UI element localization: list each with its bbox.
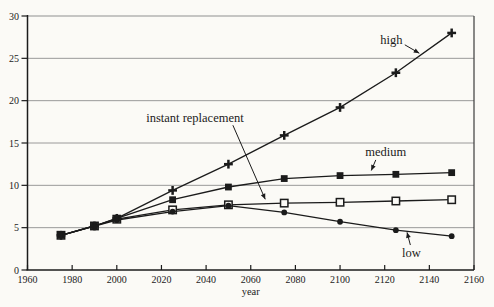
y-tick-label-30: 30 [9, 11, 19, 22]
annotation-label-instant-replacement: instant replacement [146, 111, 244, 125]
x-axis-title: year [242, 286, 261, 297]
y-tick-label-25: 25 [9, 53, 19, 64]
marker-medium [281, 175, 288, 182]
y-tick-label-10: 10 [9, 180, 19, 191]
marker-instant-replacement [281, 199, 288, 206]
marker-medium [225, 184, 232, 191]
population-projection-chart: 0510152025301960198020002020204020602080… [0, 0, 494, 307]
marker-instant-replacement [336, 199, 343, 206]
marker-medium [392, 171, 399, 178]
x-tick-label-2020: 2020 [151, 274, 171, 285]
paper-background [0, 0, 494, 307]
marker-low [226, 203, 232, 209]
marker-medium [169, 196, 176, 203]
scanned-figure-page: 0510152025301960198020002020204020602080… [0, 0, 494, 307]
marker-instant-replacement [392, 197, 399, 204]
marker-low [449, 233, 455, 239]
x-tick-label-2140: 2140 [419, 274, 439, 285]
marker-instant-replacement [448, 196, 455, 203]
annotation-label-low: low [402, 246, 421, 260]
x-tick-label-1960: 1960 [18, 274, 38, 285]
marker-medium [448, 169, 455, 176]
marker-low [281, 210, 287, 216]
x-tick-label-2000: 2000 [107, 274, 127, 285]
y-tick-label-5: 5 [14, 222, 19, 233]
x-tick-label-1980: 1980 [62, 274, 82, 285]
marker-low [393, 227, 399, 233]
marker-low [337, 219, 343, 225]
x-tick-label-2100: 2100 [330, 274, 350, 285]
annotation-label-medium: medium [365, 145, 406, 159]
x-tick-label-2080: 2080 [285, 274, 305, 285]
x-tick-label-2060: 2060 [241, 274, 261, 285]
annotation-label-high: high [380, 33, 403, 47]
chart-canvas: 0510152025301960198020002020204020602080… [0, 0, 494, 307]
y-tick-label-20: 20 [9, 95, 19, 106]
marker-low [170, 209, 176, 215]
marker-medium [337, 172, 344, 179]
x-tick-label-2120: 2120 [375, 274, 395, 285]
x-tick-label-2040: 2040 [196, 274, 216, 285]
y-tick-label-15: 15 [9, 138, 19, 149]
x-tick-label-2160: 2160 [464, 274, 484, 285]
